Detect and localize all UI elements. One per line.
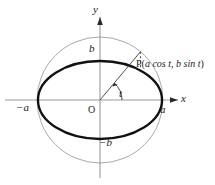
- angle-label: t: [119, 88, 122, 99]
- parametric-ellipse-figure: y x b −b a −a O t P(a cos t, b sin t): [0, 0, 215, 185]
- semi-minor-positive-label: b: [89, 43, 95, 54]
- point-p-prefix: P(: [136, 58, 145, 69]
- semi-major-positive-label: a: [160, 104, 166, 115]
- point-p-label: P(a cos t, b sin t): [136, 59, 204, 69]
- y-axis-label: y: [93, 4, 98, 15]
- y-axis-arrowhead: [97, 17, 103, 25]
- x-axis-label: x: [181, 93, 186, 104]
- x-axis-arrowhead: [170, 97, 178, 103]
- point-p-suffix: ): [200, 58, 203, 69]
- origin-label: O: [88, 105, 95, 115]
- semi-minor-negative-label: −b: [99, 137, 112, 148]
- point-p-x-expression: a cos t: [145, 58, 171, 69]
- point-p-y-expression: b sin t: [176, 58, 200, 69]
- semi-major-negative-label: −a: [16, 102, 29, 113]
